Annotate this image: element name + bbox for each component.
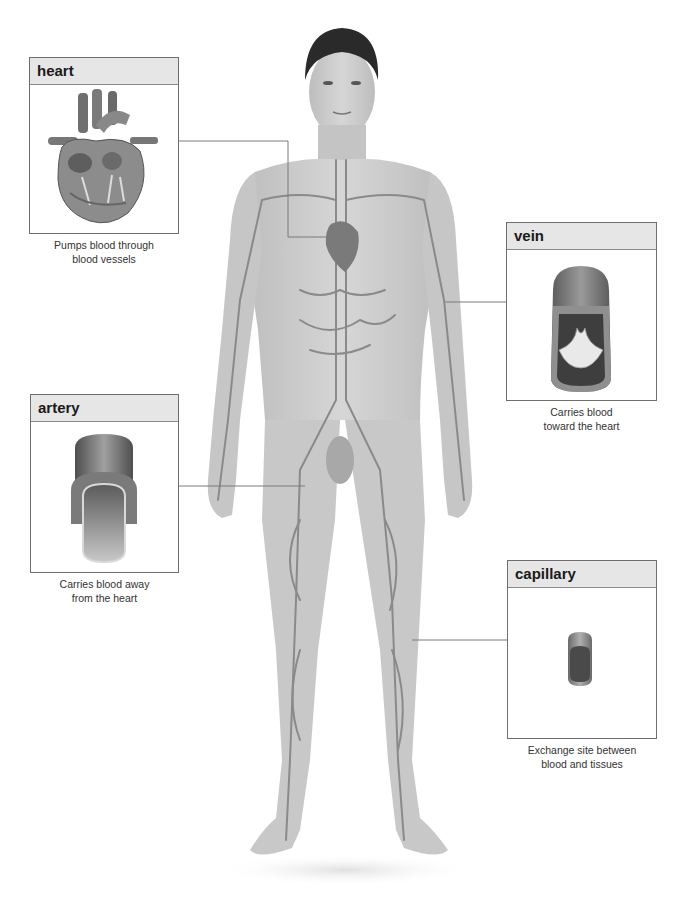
heart-title: heart [30,58,178,85]
heart-icon [30,85,178,233]
capillary-box: capillary [507,560,657,739]
capillary-title: capillary [508,561,656,588]
heart-caption: Pumps blood through blood vessels [29,238,179,266]
vein-icon [507,250,656,400]
artery-title: artery [31,395,178,422]
artery-caption: Carries blood away from the heart [30,577,179,605]
capillary-caption: Exchange site between blood and tissues [507,743,657,771]
heart-box: heart [29,57,179,234]
capillary-icon [508,588,656,738]
artery-box: artery [30,394,179,573]
artery-icon [31,422,178,572]
vein-box: vein [506,222,657,401]
vein-caption: Carries blood toward the heart [506,405,657,433]
vein-title: vein [507,223,656,250]
cardiovascular-diagram: heart Pumps blood through blood vessel [0,0,680,899]
